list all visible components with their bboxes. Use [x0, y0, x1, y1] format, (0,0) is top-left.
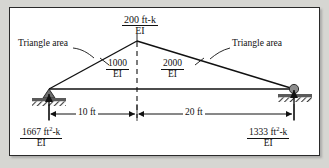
right-area-value-label: 2000 EI	[161, 59, 184, 80]
top-moment-value-label: 200 ft-k EI	[122, 15, 158, 37]
figure-frame: 200 ft-k EI Triangle area Triangle area …	[9, 7, 320, 156]
left-reaction-value-label: 1667 ft2-k EI	[20, 128, 62, 149]
left-reaction-denominator: EI	[20, 139, 62, 149]
right-span-dimension-label: 20 ft	[183, 108, 205, 118]
right-reaction-value-label: 1333 ft2-k EI	[247, 128, 289, 149]
left-area-denominator: EI	[106, 70, 129, 80]
left-triangle-leader-line	[73, 48, 94, 58]
right-support-roller	[278, 84, 312, 102]
top-moment-fraction: 200 ft-k EI	[122, 15, 158, 36]
right-reaction-numerator-tail: -k	[279, 127, 287, 137]
left-area-fraction: 1000 EI	[106, 59, 129, 79]
right-reaction-denominator: EI	[247, 139, 289, 149]
left-triangle-area-note: Triangle area	[18, 39, 68, 49]
right-reaction-numerator-text: 1333 ft	[249, 127, 276, 137]
left-reaction-numerator-text: 1667 ft	[22, 127, 49, 137]
right-triangle-leader-line	[210, 48, 230, 59]
right-triangle-area-note: Triangle area	[232, 39, 282, 49]
left-reaction-fraction: 1667 ft2-k EI	[20, 128, 62, 148]
right-area-fraction: 2000 EI	[161, 59, 184, 79]
figure-root: 200 ft-k EI Triangle area Triangle area …	[0, 0, 329, 168]
left-area-value-label: 1000 EI	[106, 59, 129, 80]
right-area-denominator: EI	[161, 70, 184, 80]
left-span-dimension-label: 10 ft	[76, 108, 98, 118]
top-moment-denominator: EI	[122, 26, 158, 36]
right-reaction-fraction: 1333 ft2-k EI	[247, 128, 289, 148]
left-reaction-numerator-tail: -k	[52, 127, 60, 137]
